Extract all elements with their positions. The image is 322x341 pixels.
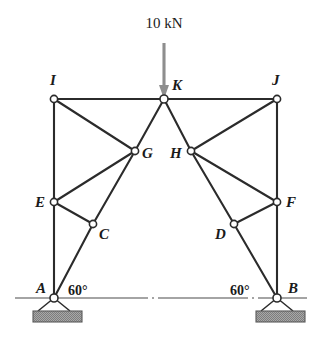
joint-F	[273, 198, 280, 205]
joint-B	[273, 294, 281, 302]
support-B	[256, 298, 305, 322]
angle-labels: 60° 60°	[68, 283, 250, 298]
joint-A	[50, 294, 58, 302]
joint-label-G: G	[142, 145, 153, 161]
joint-label-C: C	[99, 226, 110, 242]
joint-label-B: B	[287, 280, 298, 296]
member-E-G	[54, 151, 135, 202]
joint-label-J: J	[271, 72, 280, 88]
member-E-C	[54, 202, 93, 224]
member-D-H	[191, 151, 234, 224]
joint-label-E: E	[34, 194, 45, 210]
truss-diagram: A B C D E F G H I J K 60° 60° 10 kN	[0, 0, 322, 341]
member-J-H	[191, 99, 277, 151]
support-A	[33, 298, 82, 322]
member-G-K	[135, 99, 164, 151]
angle-label-B: 60°	[230, 283, 250, 298]
load-label: 10 kN	[145, 15, 182, 31]
member-C-G	[93, 151, 135, 224]
joint-label-D: D	[214, 226, 226, 242]
joint-J	[273, 95, 280, 102]
joint-G	[131, 147, 138, 154]
angle-label-A: 60°	[68, 283, 88, 298]
joint-label-F: F	[285, 194, 296, 210]
joint-label-H: H	[169, 145, 183, 161]
joint-C	[89, 220, 96, 227]
joint-E	[50, 198, 57, 205]
joint-K	[160, 95, 168, 103]
joint-label-K: K	[171, 77, 183, 93]
support-B-base	[256, 311, 305, 322]
member-F-H	[191, 151, 277, 202]
truss-joints	[50, 95, 281, 302]
joint-label-A: A	[35, 280, 46, 296]
joint-label-I: I	[49, 72, 57, 88]
load-arrow	[159, 43, 169, 99]
support-A-base	[33, 311, 82, 322]
member-F-D	[234, 202, 277, 224]
member-I-G	[54, 99, 135, 151]
member-H-K	[164, 99, 191, 151]
joint-H	[187, 147, 194, 154]
joint-D	[230, 220, 237, 227]
truss-members	[54, 99, 277, 298]
joint-I	[50, 95, 57, 102]
